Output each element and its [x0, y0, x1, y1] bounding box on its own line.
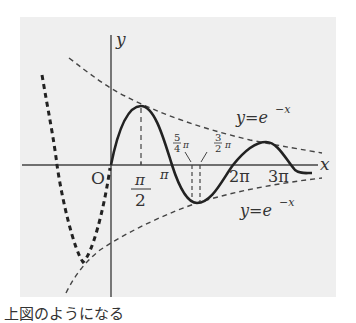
three-pi-label: 3π: [268, 167, 289, 186]
upper-envelope-exponent: −x: [275, 103, 291, 116]
half-pi-denominator: 2: [135, 190, 146, 210]
lower-envelope-exponent: −x: [279, 196, 295, 209]
lower-envelope-label: y=e: [239, 201, 272, 220]
five-quarter-numerator: 5: [174, 132, 180, 143]
three-half-numerator: 3: [215, 132, 221, 143]
y-axis-label: y: [115, 29, 126, 49]
three-half-denominator: 2: [215, 143, 221, 154]
two-pi-label: 2π: [229, 167, 250, 186]
x-axis-label: x: [320, 154, 330, 174]
graph-background: [20, 17, 336, 297]
origin-label: O: [91, 168, 105, 188]
three-half-pi: π: [224, 140, 232, 150]
pi-label: π: [159, 167, 169, 182]
half-pi-numerator: π: [134, 171, 146, 189]
five-quarter-pi: π: [182, 140, 190, 150]
five-quarter-denominator: 4: [174, 143, 180, 154]
upper-envelope-label: y=e: [235, 108, 268, 127]
